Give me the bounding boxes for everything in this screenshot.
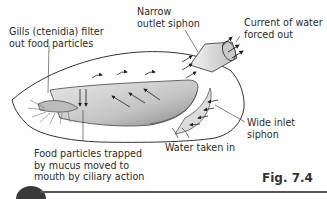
food-particles-label: Food particles trapped by mucus moved to… [34, 148, 144, 183]
outlet-siphon-label-line2: outlet siphon [137, 18, 200, 30]
inlet-siphon-label-line2: siphon [247, 129, 295, 141]
gills-label-line2: out food particles [9, 38, 104, 50]
footer-rule [40, 191, 327, 193]
inlet-siphon-label-line1: Wide inlet [247, 117, 295, 129]
current-out-label-line1: Current of water [244, 17, 323, 29]
inlet-siphon-label: Wide inlet siphon [247, 117, 295, 140]
outlet-siphon-label-line1: Narrow [137, 6, 200, 18]
food-particles-label-line2: by mucus moved to [34, 160, 144, 172]
food-particles-label-line3: mouth by ciliary action [34, 171, 144, 183]
figure-caption: Fig. 7.4 [262, 171, 313, 185]
water-in-label: Water taken in [165, 142, 235, 154]
current-out-label-line2: forced out [244, 29, 323, 41]
water-in-label-line1: Water taken in [165, 142, 235, 154]
current-out-label: Current of water forced out [244, 17, 323, 40]
gills-label: Gills (ctenidia) filter out food particl… [9, 26, 104, 49]
outlet-siphon-label: Narrow outlet siphon [137, 6, 200, 29]
gills-label-line1: Gills (ctenidia) filter [9, 26, 104, 38]
outlet-siphon-shape [190, 40, 238, 72]
food-particles-label-line1: Food particles trapped [34, 148, 144, 160]
